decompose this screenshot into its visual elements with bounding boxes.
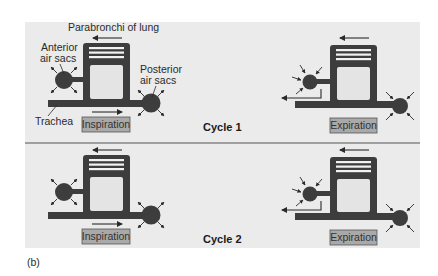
cycle-2-title: Cycle 2 [203, 233, 242, 245]
cycle-2-expiration-label: Expiration [330, 231, 377, 243]
posterior-label-line2: air sacs [140, 74, 176, 86]
anterior-label-line2: air sacs [40, 52, 76, 64]
cycle-1-expiration-label: Expiration [330, 119, 377, 131]
cycle-2-inspiration-label: Inspiration [82, 230, 131, 242]
trachea-label: Trachea [35, 115, 73, 127]
figure-label: (b) [27, 256, 40, 268]
cycle-1-inspiration-label: Inspiration [82, 118, 131, 130]
cycle-1-title: Cycle 1 [203, 121, 242, 133]
bird-respiration-diagram: Parabronchi of lung Anterior air sacs Po… [0, 0, 438, 276]
parabronchi-label: Parabronchi of lung [68, 21, 159, 33]
